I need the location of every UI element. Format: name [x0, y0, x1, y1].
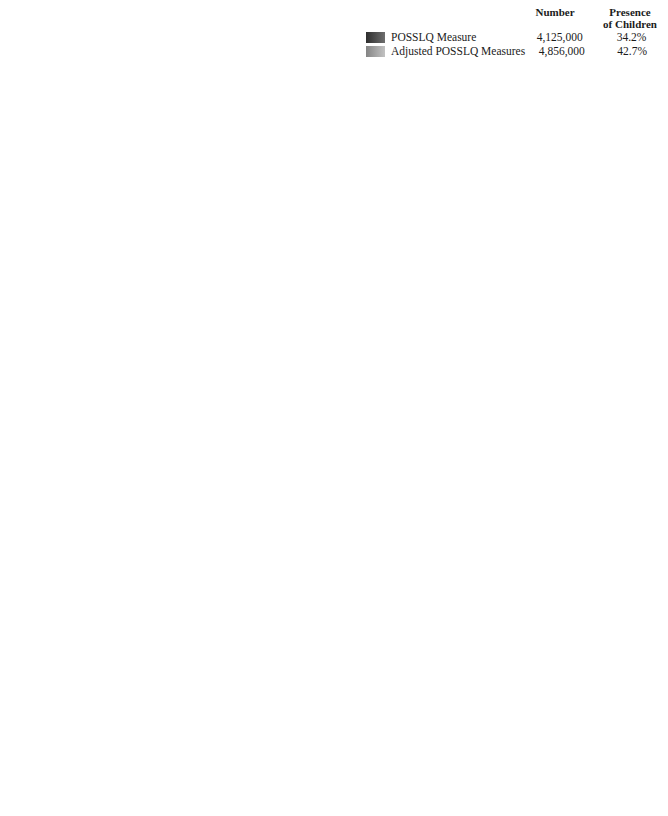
- legend-item[interactable]: Adjusted POSSLQ Measures4,856,00042.7%: [366, 44, 666, 58]
- legend-item-number: 4,125,000: [522, 30, 597, 44]
- legend-col-children: Presence of Children: [594, 6, 666, 30]
- legend-item-children: 42.7%: [598, 44, 666, 58]
- legend-swatch-icon: [366, 46, 385, 57]
- legend-item-label: POSSLQ Measure: [391, 30, 522, 44]
- chart-legend: Number Presence of Children POSSLQ Measu…: [366, 6, 666, 58]
- legend-header-row: Number Presence of Children: [366, 6, 666, 30]
- legend-col-number: Number: [516, 6, 594, 30]
- legend-rows: POSSLQ Measure4,125,00034.2%Adjusted POS…: [366, 30, 666, 58]
- legend-item-label: Adjusted POSSLQ Measures: [391, 44, 525, 58]
- legend-col-children-line1: Presence: [594, 6, 666, 18]
- legend-item-number: 4,856,000: [525, 44, 598, 58]
- legend-swatch-icon: [366, 32, 385, 43]
- legend-col-children-line2: of Children: [594, 18, 666, 30]
- legend-item[interactable]: POSSLQ Measure4,125,00034.2%: [366, 30, 666, 44]
- legend-item-children: 34.2%: [597, 30, 666, 44]
